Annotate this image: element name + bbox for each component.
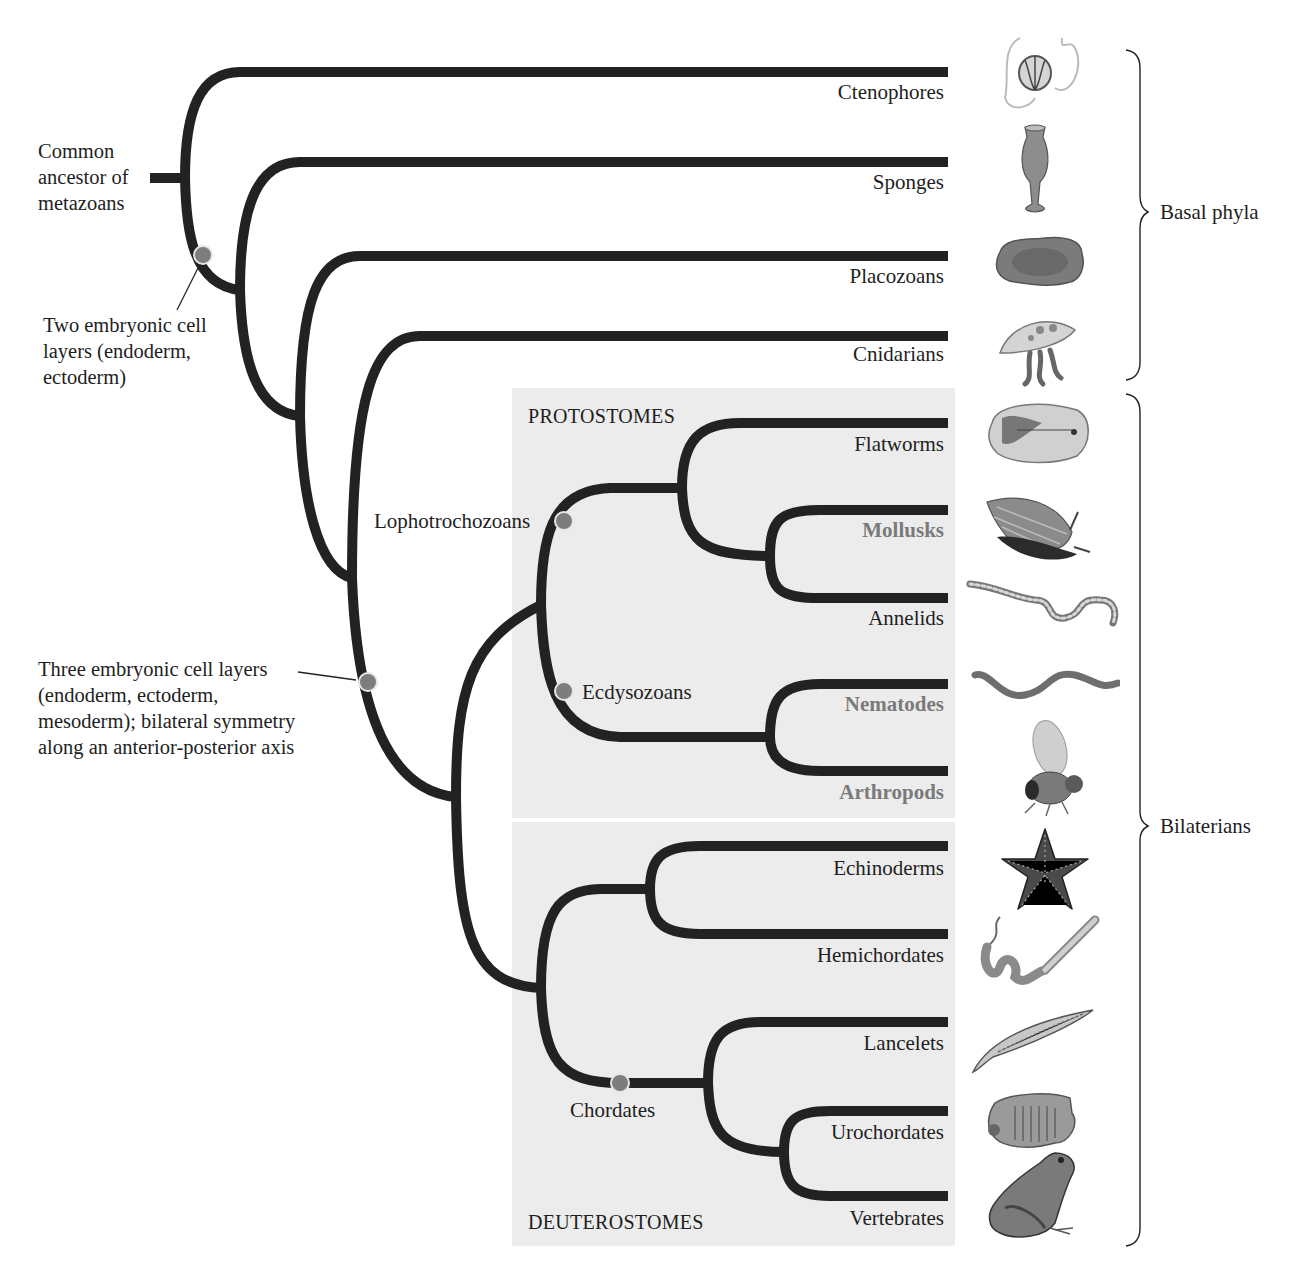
taxon-label-nematodes: Nematodes <box>644 692 944 716</box>
branch-ambulacraria <box>541 889 650 988</box>
branch-deuterostomes <box>456 797 541 988</box>
placozoan-icon <box>990 232 1090 292</box>
jellyfish-icon <box>995 308 1085 388</box>
taxon-label-hemichordates: Hemichordates <box>644 943 944 967</box>
branch-node-c-lower <box>300 416 352 578</box>
starfish-icon <box>1000 825 1090 915</box>
taxon-label-echinoderms: Echinoderms <box>644 856 944 880</box>
ctenophore-icon <box>990 28 1090 118</box>
earthworm-icon <box>965 578 1120 633</box>
nematode-icon <box>970 665 1120 705</box>
bracket-bilaterians <box>1126 394 1148 1246</box>
node-marker-ecdysozoans <box>555 682 573 700</box>
taxon-label-ctenophores: Ctenophores <box>644 80 944 104</box>
frog-icon <box>985 1148 1085 1243</box>
bracket-basal-phyla <box>1126 50 1148 380</box>
annotation-two-cell-layers: Two embryonic cell layers (endoderm, ect… <box>43 312 263 390</box>
taxon-label-mollusks: Mollusks <box>644 518 944 542</box>
lancelet-icon <box>968 1002 1096 1077</box>
leader-line-two-layers <box>177 266 199 310</box>
label-chordates: Chordates <box>570 1098 655 1122</box>
taxon-label-vertebrates: Vertebrates <box>644 1206 944 1230</box>
label-lophotrochozoans: Lophotrochozoans <box>374 509 530 533</box>
node-marker-lophotrochozoans <box>555 512 573 530</box>
phylogeny-diagram: Common ancestor of metazoans Two embryon… <box>0 0 1294 1276</box>
root-label: Common ancestor of metazoans <box>38 138 158 216</box>
branch-annelids <box>770 556 948 598</box>
taxon-label-annelids: Annelids <box>644 606 944 630</box>
node-marker-three-layers <box>359 673 377 691</box>
taxon-label-cnidarians: Cnidarians <box>644 342 944 366</box>
branch-arthropods <box>770 737 948 771</box>
node-marker-two-layers <box>194 246 212 264</box>
bracket-label-bilaterians: Bilaterians <box>1160 814 1251 838</box>
sponge-icon <box>1010 122 1060 217</box>
taxon-label-sponges: Sponges <box>644 170 944 194</box>
branch-lophotrochozoans <box>541 488 682 605</box>
taxon-label-arthropods: Arthropods <box>644 780 944 804</box>
label-protostomes: PROTOSTOMES <box>528 404 675 428</box>
taxon-label-flatworms: Flatworms <box>644 432 944 456</box>
fruit-fly-icon <box>1010 718 1100 818</box>
node-marker-chordates <box>611 1074 629 1092</box>
bracket-label-basal-phyla: Basal phyla <box>1160 200 1259 224</box>
taxon-label-placozoans: Placozoans <box>644 264 944 288</box>
taxon-label-urochordates: Urochordates <box>644 1120 944 1144</box>
branch-vertebrates <box>784 1152 948 1196</box>
acorn-worm-icon <box>975 912 1100 997</box>
flatworm-icon <box>982 398 1094 468</box>
taxon-label-lancelets: Lancelets <box>644 1031 944 1055</box>
branch-node-a-lower <box>185 178 240 290</box>
annotation-three-cell-layers: Three embryonic cell layers (endoderm, e… <box>38 656 358 760</box>
sea-squirt-icon <box>980 1088 1085 1153</box>
branch-protostomes <box>456 605 541 797</box>
branch-hemichordates <box>650 889 948 934</box>
snail-icon <box>982 492 1092 572</box>
